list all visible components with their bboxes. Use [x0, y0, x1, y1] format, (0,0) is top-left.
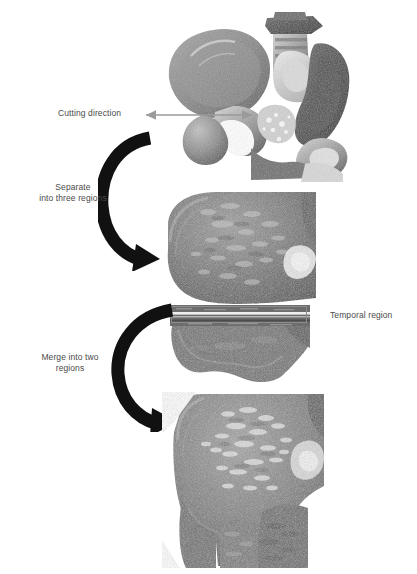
temporal-region-label: Temporal region: [330, 310, 416, 321]
femoral-head-merged-render: [162, 392, 324, 568]
separate-regions-label: Separate into three regions: [18, 182, 128, 204]
panel-pelvis-overview: [155, 8, 355, 183]
panel-merged: [162, 392, 324, 568]
pelvis-3d-render: [155, 8, 355, 183]
figure-canvas: Cutting direction Separate into three re…: [0, 0, 417, 574]
cutting-direction-label: Cutting direction: [58, 108, 138, 119]
merge-regions-label: Merge into two regions: [14, 352, 126, 374]
cutting-direction-arrow: [138, 106, 258, 124]
